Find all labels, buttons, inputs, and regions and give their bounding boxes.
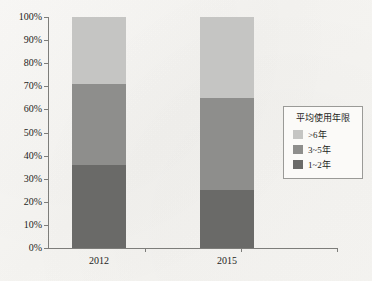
legend-swatch-icon: [293, 130, 303, 139]
y-tick-mark: [44, 248, 48, 249]
y-tick-label: 70%: [24, 78, 42, 94]
legend-item-label: 1~2年: [308, 158, 331, 171]
x-axis-label-2012: 2012: [72, 255, 126, 266]
legend-item-3-to-5-years[interactable]: 3~5年: [293, 143, 357, 156]
y-tick-mark: [44, 179, 48, 180]
y-axis-line: [48, 17, 49, 248]
x-tick-mark: [145, 248, 146, 252]
legend-title: 平均使用年限: [289, 111, 357, 124]
chart-legend: 平均使用年限 >6年 3~5年 1~2年: [283, 106, 363, 179]
bar-segment-3-to-5-years[interactable]: [72, 84, 126, 165]
legend-swatch-icon: [293, 160, 303, 169]
y-tick-label: 80%: [24, 55, 42, 71]
bar-segment-over-6-years[interactable]: [200, 17, 254, 98]
x-tick-mark: [241, 248, 242, 252]
y-tick-label: 30%: [24, 171, 42, 187]
legend-item-over-6-years[interactable]: >6年: [293, 128, 357, 141]
y-tick-label: 60%: [24, 101, 42, 117]
y-tick-mark: [44, 225, 48, 226]
chart-container: 100% 90% 80% 70% 60% 50% 40% 30%: [0, 0, 372, 281]
y-tick-mark: [44, 133, 48, 134]
y-tick-label: 40%: [24, 148, 42, 164]
y-tick-label: 100%: [19, 9, 42, 25]
x-axis-label-2015: 2015: [200, 255, 254, 266]
y-tick-label: 50%: [24, 125, 42, 141]
y-tick-label: 20%: [24, 194, 42, 210]
y-tick-mark: [44, 40, 48, 41]
y-tick-label: 0%: [29, 240, 42, 256]
bar-segment-1-to-2-years[interactable]: [200, 190, 254, 248]
bar-segment-over-6-years[interactable]: [72, 17, 126, 84]
y-tick-mark: [44, 156, 48, 157]
legend-item-1-to-2-years[interactable]: 1~2年: [293, 158, 357, 171]
legend-item-label: 3~5年: [308, 143, 331, 156]
legend-item-label: >6年: [308, 128, 327, 141]
y-tick-label: 10%: [24, 217, 42, 233]
y-tick-mark: [44, 202, 48, 203]
x-axis-line: [48, 248, 338, 249]
y-tick-mark: [44, 109, 48, 110]
bar-segment-1-to-2-years[interactable]: [72, 165, 126, 248]
x-tick-mark: [337, 248, 338, 252]
bar-segment-3-to-5-years[interactable]: [200, 98, 254, 190]
y-tick-mark: [44, 63, 48, 64]
y-tick-mark: [44, 17, 48, 18]
legend-swatch-icon: [293, 145, 303, 154]
y-tick-label: 90%: [24, 32, 42, 48]
y-tick-mark: [44, 86, 48, 87]
